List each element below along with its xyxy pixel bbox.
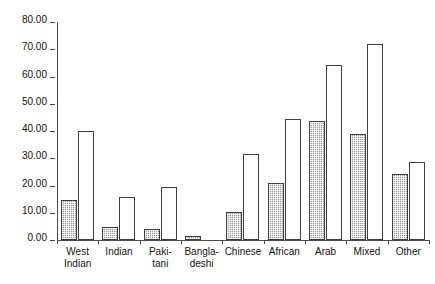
bar-group [305,22,346,240]
bar-series-1 [226,212,242,240]
x-axis-tick-mark [429,240,430,244]
bar-chart: 0.0010.0020.0030.0040.0050.0060.0070.008… [0,0,435,284]
x-axis-ticks [57,240,429,245]
bar-series-1 [102,227,118,240]
bar-groups [57,22,429,240]
bar-series-1 [392,174,408,240]
y-axis-tick-label: 20.00 [22,179,47,189]
bar-series-1 [268,183,284,240]
bar-series-2 [285,119,301,240]
bar-group [346,22,387,240]
bar-series-2 [367,44,383,240]
x-axis-tick-mark [181,240,182,244]
x-axis-label: West Indian [57,246,98,270]
x-axis-tick-mark [264,240,265,244]
y-axis-tick-mark [50,240,55,241]
y-axis-tick-mark [50,186,55,187]
x-axis-tick-mark [98,240,99,244]
bar-group [264,22,305,240]
y-axis-ticks: 0.0010.0020.0030.0040.0050.0060.0070.008… [0,0,57,284]
x-axis-tick-mark [346,240,347,244]
bar-series-1 [350,134,366,240]
bar-series-2 [409,162,425,240]
y-axis-tick-label: 80.00 [22,15,47,25]
x-axis-label: Indian [98,246,139,270]
y-axis-tick-mark [50,22,55,23]
y-axis-tick-mark [50,49,55,50]
bar-series-2 [326,65,342,240]
x-axis-tick-mark [57,240,58,244]
y-axis-tick-mark [50,158,55,159]
x-axis-label: Chinese [222,246,263,270]
y-axis-tick-label: 50.00 [22,97,47,107]
bar-group [388,22,429,240]
x-axis-label: Paki- tani [140,246,181,270]
y-axis-tick-mark [50,131,55,132]
x-axis-label: African [264,246,305,270]
y-axis-tick-label: 60.00 [22,70,47,80]
y-axis-tick-label: 0.00 [28,233,47,243]
y-axis-tick-label: 70.00 [22,42,47,52]
bar-series-2 [78,131,94,240]
x-axis-tick-mark [305,240,306,244]
x-axis-label: Other [388,246,429,270]
x-axis-label: Mixed [346,246,387,270]
y-axis-tick-label: 40.00 [22,124,47,134]
bar-group [181,22,222,240]
y-axis-tick-mark [50,213,55,214]
x-axis-labels: West IndianIndianPaki- taniBangla- deshi… [57,246,429,270]
bar-group [140,22,181,240]
bar-group [222,22,263,240]
x-axis-label: Bangla- deshi [181,246,222,270]
x-axis-tick-mark [388,240,389,244]
x-axis-label: Arab [305,246,346,270]
bar-series-1 [144,229,160,240]
y-axis-tick-mark [50,104,55,105]
bar-series-2 [161,187,177,240]
bar-group [57,22,98,240]
x-axis-tick-mark [222,240,223,244]
y-axis-tick-label: 10.00 [22,206,47,216]
y-axis-tick-label: 30.00 [22,151,47,161]
bar-series-2 [243,154,259,240]
bar-group [98,22,139,240]
bar-series-1 [61,200,77,240]
bar-series-2 [119,197,135,240]
x-axis-tick-mark [140,240,141,244]
bar-series-1 [309,121,325,240]
y-axis-tick-mark [50,77,55,78]
